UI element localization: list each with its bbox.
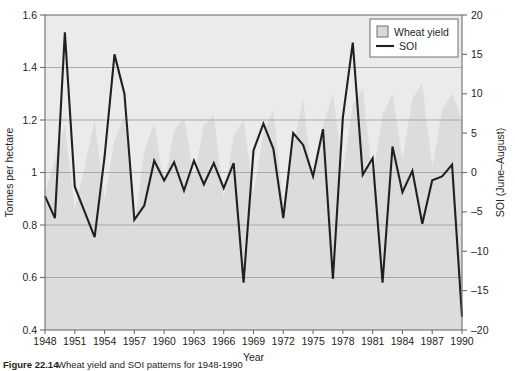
y-axis-left-title: Tonnes per hectare (3, 127, 15, 217)
y-axis-right: –20–15–10–505101520SOI (June–August) (462, 9, 506, 336)
y-axis-right-tick-label: –5 (471, 205, 483, 217)
figure-caption-label: Figure 22.14 (3, 359, 59, 370)
y-axis-right-tick-label: –15 (471, 284, 489, 296)
figure-caption: Figure 22.14Wheat yield and SOI patterns… (3, 359, 243, 370)
x-axis-tick-label: 1960 (152, 335, 176, 347)
y-axis-left-tick-label: 0.4 (22, 324, 37, 336)
y-axis-left: 0.40.60.811.21.41.6Tonnes per hectare (3, 9, 45, 336)
figure-caption-text: Wheat yield and SOI patterns for 1948-19… (57, 359, 243, 370)
legend: Wheat yieldSOI (370, 19, 458, 57)
x-axis-tick-label: 1978 (331, 335, 355, 347)
x-axis-tick-label: 1963 (182, 335, 206, 347)
y-axis-right-tick-label: –10 (471, 245, 489, 257)
y-axis-left-tick-label: 0.6 (22, 271, 37, 283)
x-axis-tick-label: 1990 (450, 335, 474, 347)
y-axis-right-tick-label: 15 (471, 48, 483, 60)
y-axis-right-title: SOI (June–August) (494, 128, 506, 217)
legend-label-wheat-yield: Wheat yield (394, 26, 449, 38)
x-axis-tick-label: 1975 (301, 335, 325, 347)
x-axis-tick-label: 1972 (272, 335, 296, 347)
x-axis-tick-label: 1969 (242, 335, 266, 347)
chart-canvas: 0.40.60.811.21.41.6Tonnes per hectare–20… (0, 0, 515, 371)
y-axis-left-tick-label: 1 (31, 166, 37, 178)
figure-wheat-yield-soi: 0.40.60.811.21.41.6Tonnes per hectare–20… (0, 0, 515, 371)
y-axis-left-tick-label: 1.6 (22, 9, 37, 21)
x-axis-title: Year (243, 351, 265, 363)
y-axis-left-tick-label: 0.8 (22, 219, 37, 231)
legend-swatch-wheat-yield (377, 26, 388, 37)
x-axis-tick-label: 1981 (361, 335, 385, 347)
y-axis-right-tick-label: 0 (471, 166, 477, 178)
y-axis-right-tick-label: –20 (471, 324, 489, 336)
y-axis-left-tick-label: 1.2 (22, 114, 37, 126)
y-axis-right-tick-label: 5 (471, 127, 477, 139)
y-axis-right-tick-label: 20 (471, 9, 483, 21)
x-axis-tick-label: 1957 (123, 335, 147, 347)
x-axis-tick-label: 1948 (33, 335, 57, 347)
x-axis-tick-label: 1966 (212, 335, 236, 347)
x-axis-tick-label: 1951 (63, 335, 87, 347)
legend-label-soi: SOI (399, 40, 417, 52)
x-axis-tick-label: 1984 (391, 335, 415, 347)
y-axis-left-tick-label: 1.4 (22, 61, 37, 73)
y-axis-right-tick-label: 10 (471, 87, 483, 99)
x-axis-tick-label: 1954 (93, 335, 117, 347)
x-axis-tick-label: 1987 (421, 335, 445, 347)
